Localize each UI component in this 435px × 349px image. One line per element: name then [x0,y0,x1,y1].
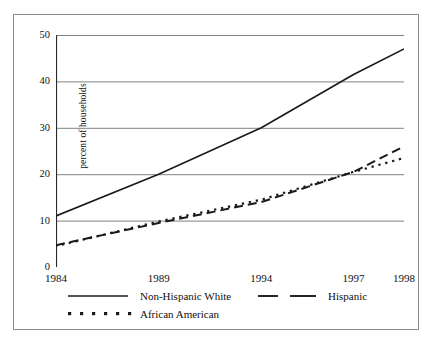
legend-row-2: African American [56,306,404,322]
legend-label-non-hispanic-white: Non-Hispanic White [140,289,231,303]
y-tick-label: 50 [10,30,50,41]
series-layer [56,49,404,246]
tick-marks [56,36,404,268]
chart-figure: percent of households 01020304050 198419… [0,0,435,349]
legend-swatch-solid [64,288,132,304]
legend-swatch-dashed [252,288,320,304]
y-tick-label: 40 [10,76,50,87]
x-tick-label: 1989 [148,273,170,284]
legend-item-hispanic: Hispanic [252,288,412,304]
legend-label-hispanic: Hispanic [328,289,367,303]
y-tick-label: 30 [10,123,50,134]
legend-row-1: Non-Hispanic White Hispanic [56,288,404,304]
x-tick-label: 1998 [393,273,415,284]
legend-item-african-american: African American [64,306,314,322]
y-tick-label: 10 [10,216,50,227]
y-tick-label: 20 [10,169,50,180]
series-line [56,158,404,246]
chart-legend: Non-Hispanic White Hispanic [56,288,404,326]
legend-label-african-american: African American [140,307,219,321]
x-tick-label: 1994 [250,273,272,284]
axis-lines [56,35,404,267]
x-tick-label: 1997 [343,273,365,284]
plot-area: percent of households 01020304050 198419… [56,35,404,267]
series-line [56,146,404,245]
series-line [56,49,404,216]
legend-swatch-dotted [64,306,132,322]
plot-svg [56,35,404,267]
y-tick-label: 0 [10,262,50,273]
gridlines [56,36,404,268]
x-tick-label: 1984 [45,273,67,284]
